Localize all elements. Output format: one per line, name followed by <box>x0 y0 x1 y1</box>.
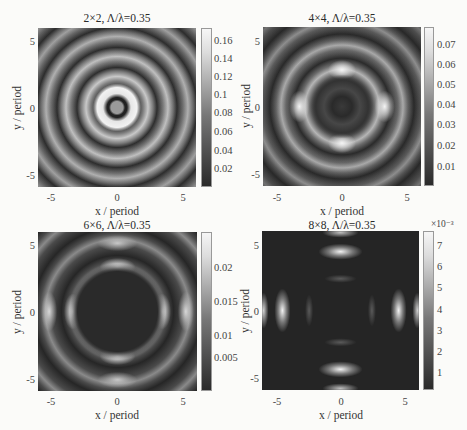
y-tick: -5 <box>250 373 259 384</box>
y-tick: -5 <box>26 374 35 385</box>
panel-1-title: 2×2, Λ/λ=0.35 <box>84 12 151 24</box>
y-tick: 5 <box>254 240 259 251</box>
x-tick: -5 <box>47 192 56 203</box>
x-tick: 5 <box>404 192 409 203</box>
cbar1-tick: 0.14 <box>214 53 232 64</box>
cbar1-tick: 0.08 <box>214 107 232 118</box>
panel-1-xlabel: x / period <box>95 205 139 217</box>
y-tick: -5 <box>251 169 260 180</box>
x-tick: 5 <box>180 396 185 407</box>
x-tick: -5 <box>273 396 282 407</box>
y-tick: 5 <box>30 240 35 251</box>
cbar4-tick: 1 <box>437 367 442 378</box>
x-tick: 0 <box>338 396 343 407</box>
cbar4-tick: 4 <box>437 304 442 315</box>
panel-3-colorbar <box>201 232 212 391</box>
y-tick: 0 <box>254 306 259 317</box>
cbar2-tick: 0.06 <box>437 59 455 70</box>
x-tick: -5 <box>273 192 282 203</box>
y-tick: 0 <box>30 307 35 318</box>
x-tick: 0 <box>114 396 119 407</box>
cbar1-tick: 0.1 <box>214 89 227 100</box>
panel-1-colorbar <box>201 28 212 187</box>
cbar2-tick: 0.02 <box>437 140 455 151</box>
panel-4-colorbar <box>423 231 434 390</box>
cbar1-tick: 0.04 <box>214 145 232 156</box>
x-tick: 0 <box>339 192 344 203</box>
panel-3-xlabel: x / period <box>95 409 139 421</box>
panel-3-title: 6×6, Λ/λ=0.35 <box>84 219 151 231</box>
cbar4-tick: 5 <box>437 282 442 293</box>
panel-4-heatmap <box>262 231 419 390</box>
panel-2-heatmap <box>263 27 421 186</box>
cbar4-tick: 3 <box>437 325 442 336</box>
cbar1-tick: 0.12 <box>214 71 232 82</box>
cbar4-tick: 2 <box>437 346 442 357</box>
y-tick: 0 <box>30 103 35 114</box>
cbar2-tick: 0.04 <box>437 99 455 110</box>
panel-2-xlabel: x / period <box>320 205 364 217</box>
x-tick: 5 <box>402 396 407 407</box>
cbar2-tick: 0.03 <box>437 119 455 130</box>
cbar1-tick: 0.02 <box>214 163 232 174</box>
panel-2-ylabel: y / period <box>240 84 252 128</box>
cbar3-tick: 0.015 <box>214 296 238 307</box>
cbar4-tick: 7 <box>437 240 442 251</box>
panel-4-xlabel: x / period <box>319 409 363 421</box>
panel-3-ylabel: y / period <box>11 290 23 334</box>
y-tick: 5 <box>30 36 35 47</box>
panel-4-ylabel: y / period <box>239 289 251 333</box>
cbar3-tick: 0.02 <box>214 262 232 273</box>
panel-1-ylabel: y / period <box>11 86 23 130</box>
y-tick: 0 <box>255 102 260 113</box>
x-tick: 5 <box>180 192 185 203</box>
panel-3-heatmap <box>38 232 197 391</box>
cbar2-tick: 0.05 <box>437 79 455 90</box>
panel-4-title: 8×8, Λ/λ=0.35 <box>309 219 376 231</box>
y-tick: 5 <box>255 36 260 47</box>
cbar1-tick: 0.16 <box>214 35 232 46</box>
cbar2-tick: 0.07 <box>437 39 455 50</box>
y-tick: -5 <box>26 170 35 181</box>
cbar2-tick: 0.01 <box>437 161 455 172</box>
panel-1-heatmap <box>38 28 196 187</box>
panel-2-title: 4×4, Λ/λ=0.35 <box>309 12 376 24</box>
cbar4-tick: 6 <box>437 261 442 272</box>
x-tick: -5 <box>47 396 56 407</box>
cbar3-tick: 0.01 <box>214 330 232 341</box>
cbar3-tick: 0.005 <box>214 352 238 363</box>
colorbar-exponent: ×10⁻³ <box>431 218 454 229</box>
panel-2-colorbar <box>424 27 434 186</box>
cbar1-tick: 0.06 <box>214 126 232 137</box>
x-tick: 0 <box>114 192 119 203</box>
